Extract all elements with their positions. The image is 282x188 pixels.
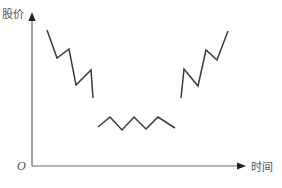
stock-price-chart bbox=[0, 0, 282, 188]
series-line-1 bbox=[47, 30, 93, 98]
series-line-3 bbox=[181, 31, 228, 98]
x-axis-label: 时间 bbox=[251, 158, 273, 174]
origin-label: O bbox=[17, 160, 26, 173]
x-axis-arrow-icon bbox=[237, 163, 246, 170]
series-line-2 bbox=[98, 117, 175, 130]
y-axis-arrow-icon bbox=[29, 12, 36, 21]
series-group bbox=[47, 30, 228, 130]
y-axis-label: 股价 bbox=[2, 5, 24, 21]
